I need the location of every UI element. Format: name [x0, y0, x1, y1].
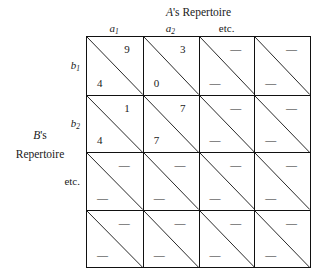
cell-diagonal-divider-icon: [87, 96, 143, 153]
cell-a-payoff: —: [230, 217, 241, 229]
matrix-cell-r3c2[interactable]: ——: [143, 153, 199, 210]
matrix-cell-r1c3[interactable]: ——: [199, 37, 255, 95]
row-header-3: etc.: [64, 174, 80, 188]
column-group-title: A's Repertoire: [86, 6, 311, 19]
cell-b-payoff: —: [265, 192, 276, 204]
cell-b-payoff: —: [265, 134, 276, 146]
matrix-cell-r3c3[interactable]: ——: [199, 153, 255, 210]
cell-b-payoff: —: [265, 77, 276, 89]
cell-a-payoff: —: [175, 217, 186, 229]
cell-a-payoff: —: [119, 217, 130, 229]
cell-diagonal-divider-icon: [200, 153, 255, 210]
cell-b-payoff: —: [154, 192, 165, 204]
column-header-subscript: 1: [115, 27, 119, 36]
cell-diagonal-divider-icon: [200, 96, 255, 153]
cell-b-payoff: —: [210, 77, 221, 89]
cell-b-payoff: —: [210, 249, 221, 261]
cell-a-payoff: 3: [180, 43, 186, 55]
matrix-row: 1477————: [87, 95, 310, 153]
matrix-cell-r1c1[interactable]: 94: [87, 37, 143, 95]
matrix-cell-r4c3[interactable]: ——: [199, 211, 255, 268]
cell-b-payoff: —: [265, 249, 276, 261]
cell-diagonal-divider-icon: [87, 37, 143, 95]
cell-diagonal-divider-icon: [255, 211, 310, 268]
cell-b-payoff: 4: [97, 77, 103, 89]
cell-b-payoff: 4: [97, 134, 103, 146]
matrix-cell-r3c1[interactable]: ——: [87, 153, 143, 210]
payoff-matrix-grid: 9430————1477————————————————————: [86, 36, 311, 268]
cell-b-payoff: —: [210, 134, 221, 146]
cell-a-payoff: 9: [124, 43, 130, 55]
matrix-cell-r4c4[interactable]: ——: [254, 211, 310, 268]
matrix-cell-r1c2[interactable]: 30: [143, 37, 199, 95]
cell-a-payoff: —: [286, 102, 297, 114]
cell-a-payoff: —: [230, 43, 241, 55]
cell-diagonal-divider-icon: [200, 37, 255, 95]
matrix-row: ————————: [87, 152, 310, 210]
matrix-cell-r2c2[interactable]: 77: [143, 96, 199, 153]
cell-a-payoff: —: [230, 102, 241, 114]
cell-b-payoff: —: [97, 192, 108, 204]
matrix-cell-r2c1[interactable]: 14: [87, 96, 143, 153]
cell-diagonal-divider-icon: [200, 211, 255, 268]
matrix-cell-r1c4[interactable]: ——: [254, 37, 310, 95]
column-header-4: [255, 21, 311, 35]
cell-b-payoff: —: [154, 249, 165, 261]
row-group-title-line1: B's: [33, 129, 47, 141]
matrix-row: ————————: [87, 210, 310, 268]
cell-b-payoff: —: [210, 192, 221, 204]
row-header-2: b2: [71, 116, 80, 130]
matrix-cell-r3c4[interactable]: ——: [254, 153, 310, 210]
column-header-label: etc.: [219, 22, 235, 34]
column-header-2: a2: [142, 21, 198, 35]
column-headers: a1a2etc.: [86, 21, 311, 35]
column-group-title-text: 's Repertoire: [173, 6, 231, 18]
cell-a-payoff: —: [286, 217, 297, 229]
cell-diagonal-divider-icon: [144, 96, 199, 153]
cell-diagonal-divider-icon: [144, 37, 199, 95]
cell-b-payoff: 7: [154, 134, 160, 146]
payoff-matrix-figure: A's Repertoire a1a2etc. B's Repertoire b…: [0, 0, 320, 276]
cell-a-payoff: —: [119, 159, 130, 171]
matrix-cell-r4c2[interactable]: ——: [143, 211, 199, 268]
cell-a-payoff: —: [286, 159, 297, 171]
cell-diagonal-divider-icon: [255, 153, 310, 210]
cell-a-payoff: 7: [180, 102, 186, 114]
row-header-1: b1: [71, 58, 80, 72]
cell-diagonal-divider-icon: [87, 211, 143, 268]
row-header-subscript: 1: [76, 64, 80, 73]
matrix-row: 9430————: [87, 37, 310, 95]
matrix-cell-r2c3[interactable]: ——: [199, 96, 255, 153]
column-header-1: a1: [86, 21, 142, 35]
cell-a-payoff: 1: [124, 102, 130, 114]
cell-diagonal-divider-icon: [87, 153, 143, 210]
column-header-subscript: 2: [171, 27, 175, 36]
cell-a-payoff: —: [286, 43, 297, 55]
row-headers: b1b2etc.: [46, 36, 82, 268]
column-header-3: etc.: [199, 21, 255, 35]
row-header-subscript: 2: [76, 122, 80, 131]
cell-b-payoff: 0: [154, 77, 160, 89]
cell-b-payoff: —: [97, 249, 108, 261]
cell-a-payoff: —: [175, 159, 186, 171]
row-header-label: etc.: [64, 175, 80, 187]
matrix-cell-r4c1[interactable]: ——: [87, 211, 143, 268]
column-group-title-symbol: A: [166, 6, 173, 18]
cell-diagonal-divider-icon: [144, 211, 199, 268]
cell-diagonal-divider-icon: [144, 153, 199, 210]
matrix-cell-r2c4[interactable]: ——: [254, 96, 310, 153]
cell-diagonal-divider-icon: [255, 96, 310, 153]
cell-a-payoff: —: [230, 159, 241, 171]
cell-diagonal-divider-icon: [255, 37, 310, 95]
